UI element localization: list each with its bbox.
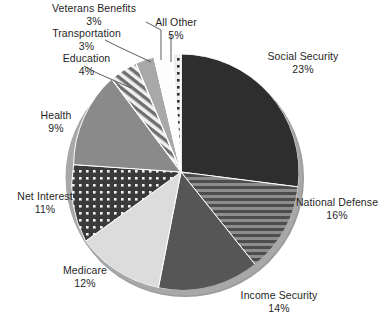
label-percent: 12%	[40, 277, 130, 290]
label-name: Veterans Benefits	[52, 2, 136, 14]
slice-label-education: Education 4%	[14, 52, 159, 77]
label-percent: 16%	[290, 209, 384, 222]
label-percent: 5%	[131, 29, 221, 42]
label-name: National Defense	[296, 196, 378, 208]
label-percent: 23%	[243, 63, 363, 76]
label-name: Income Security	[241, 289, 318, 301]
label-name: Net Interest	[17, 190, 72, 202]
label-name: Social Security	[268, 50, 339, 62]
slice-label-income-security: Income Security 14%	[219, 289, 339, 314]
label-percent: 14%	[219, 302, 339, 315]
label-name: Transportation	[52, 27, 121, 39]
slice-label-net-interest: Net Interest 11%	[2, 190, 88, 215]
slice-label-medicare: Medicare 12%	[40, 264, 130, 289]
slice-label-social-security: Social Security 23%	[243, 50, 363, 75]
slice-label-health: Health 9%	[22, 109, 90, 134]
pie-chart-figure: Veterans Benefits 3% Transportation 3% E…	[0, 0, 384, 326]
label-percent: 3%	[14, 40, 159, 53]
label-percent: 9%	[22, 122, 90, 135]
label-percent: 11%	[2, 203, 88, 216]
label-name: Education	[63, 52, 111, 64]
label-name: Medicare	[63, 264, 107, 276]
label-name: Health	[41, 109, 72, 121]
label-percent: 4%	[14, 65, 159, 78]
slice-label-national-defense: National Defense 16%	[290, 196, 384, 221]
label-name: All Other	[155, 16, 197, 28]
slice-label-all-other: All Other 5%	[131, 16, 221, 41]
